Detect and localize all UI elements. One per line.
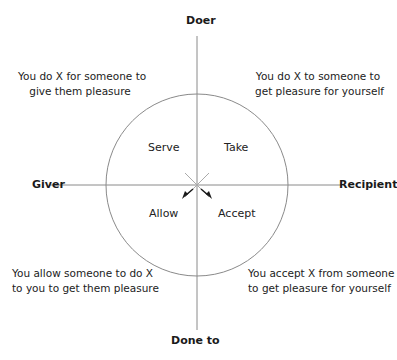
arrow-down-left-icon bbox=[182, 189, 193, 199]
description-allow-line-1: You allow someone to do X bbox=[12, 266, 148, 281]
quadrant-label-allow: Allow bbox=[149, 207, 178, 220]
description-allow: You allow someone to do X to you to get … bbox=[12, 266, 148, 296]
axis-label-done-to: Done to bbox=[171, 334, 220, 347]
description-serve: You do X for someone to give them pleasu… bbox=[18, 69, 142, 99]
description-accept: You accept X from someone to get pleasur… bbox=[248, 266, 386, 296]
axis-label-recipient: Recipient bbox=[339, 178, 397, 191]
quadrant-label-take: Take bbox=[224, 141, 248, 154]
description-take: You do X to someone to get pleasure for … bbox=[255, 69, 381, 99]
axis-label-giver: Giver bbox=[32, 178, 65, 191]
quadrant-label-serve: Serve bbox=[148, 141, 180, 154]
description-take-line-1: You do X to someone to bbox=[255, 69, 381, 84]
description-allow-line-2: to you to get them pleasure bbox=[12, 281, 148, 296]
description-accept-line-1: You accept X from someone bbox=[248, 266, 386, 281]
axis-label-doer: Doer bbox=[186, 14, 216, 27]
quadrant-label-accept: Accept bbox=[218, 207, 256, 220]
description-take-line-2: get pleasure for yourself bbox=[255, 84, 381, 99]
arrow-down-right-icon bbox=[201, 189, 212, 199]
description-accept-line-2: to get pleasure for yourself bbox=[248, 281, 386, 296]
description-serve-line-2: give them pleasure bbox=[18, 84, 142, 99]
description-serve-line-1: You do X for someone to bbox=[18, 69, 142, 84]
